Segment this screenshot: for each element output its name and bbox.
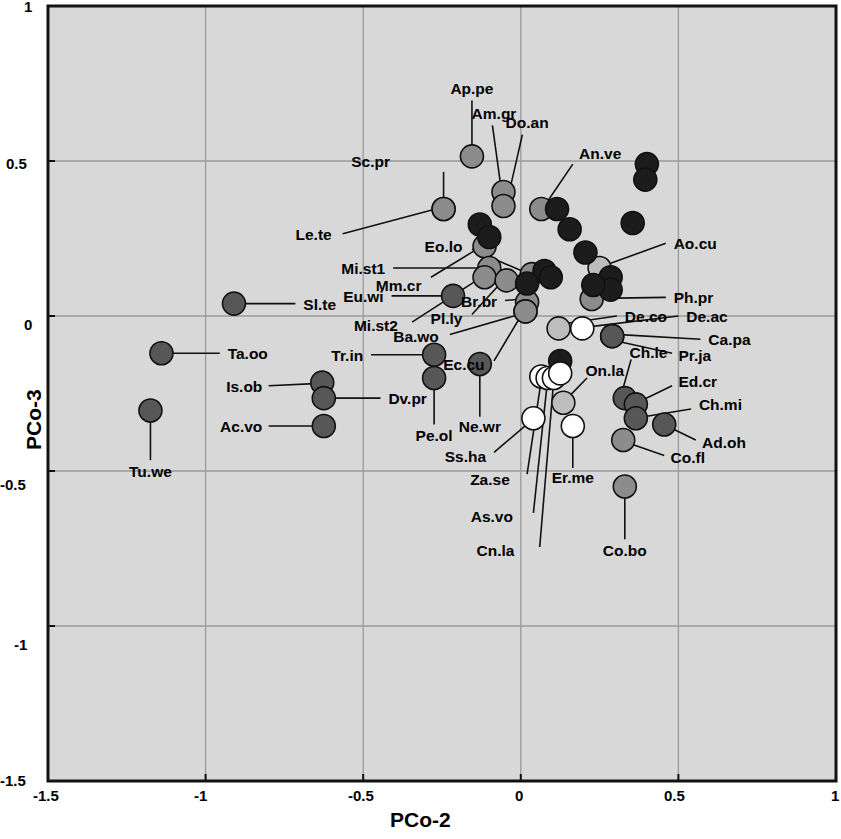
point-label: Cn.la	[477, 542, 515, 559]
x-tick-neg15: -1.5	[33, 787, 59, 804]
point-label: Dv.pr	[388, 390, 426, 407]
data-point-marker[interactable]	[539, 266, 562, 289]
x-tick-neg05: -0.5	[348, 787, 374, 804]
point-label: Ch.mi	[699, 396, 742, 413]
data-point-marker[interactable]	[478, 225, 501, 248]
point-label: Mi.st1	[341, 260, 385, 277]
data-point-marker[interactable]	[516, 272, 539, 295]
point-label: Br.br	[461, 293, 497, 310]
point-label: Tu.we	[129, 463, 172, 480]
point-label: Le.te	[295, 226, 332, 243]
point-label: On.la	[585, 362, 624, 379]
data-point-marker[interactable]	[558, 218, 581, 241]
x-tick-1: 1	[831, 787, 839, 804]
data-point-marker[interactable]	[460, 145, 483, 168]
data-point-marker[interactable]	[139, 399, 162, 422]
data-point-marker[interactable]	[473, 266, 496, 289]
x-tick-neg1: -1	[194, 787, 207, 804]
data-point-marker[interactable]	[150, 342, 173, 365]
y-axis-title: PCo-3	[22, 389, 46, 450]
point-label: Mi.st2	[354, 317, 398, 334]
point-label: Za.se	[470, 471, 510, 488]
x-tick-0: 0	[515, 787, 523, 804]
data-point-marker[interactable]	[582, 274, 605, 297]
x-axis-title: PCo-2	[390, 808, 451, 832]
y-tick-neg1: -1	[14, 636, 27, 653]
y-tick-05: 0.5	[6, 155, 27, 172]
pcoa-scatter-plot: Sl.teTa.ooIs.obDv.prAc.voTu.weSc.prLe.te…	[0, 0, 841, 839]
data-point-marker[interactable]	[634, 168, 657, 191]
point-label: De.co	[625, 308, 667, 325]
data-point-marker[interactable]	[423, 367, 446, 390]
point-label: Ne.wr	[459, 418, 501, 435]
data-point-marker[interactable]	[312, 387, 335, 410]
y-tick-neg15: -1.5	[0, 772, 26, 789]
point-label: Ao.cu	[674, 235, 717, 252]
data-point-marker[interactable]	[423, 343, 446, 366]
point-label: Ap.pe	[450, 80, 493, 97]
point-label: Pr.ja	[678, 347, 711, 364]
data-point-marker[interactable]	[432, 198, 455, 221]
data-point-marker[interactable]	[522, 407, 545, 430]
x-tick-05: 0.5	[664, 787, 685, 804]
point-label: Tr.in	[331, 347, 363, 364]
data-point-marker[interactable]	[561, 415, 584, 438]
point-label: De.ac	[686, 308, 728, 325]
point-label: Is.ob	[226, 378, 262, 395]
data-point-marker[interactable]	[601, 325, 624, 348]
data-point-marker[interactable]	[613, 475, 636, 498]
plot-background	[48, 6, 836, 781]
y-tick-1: 1	[24, 0, 32, 15]
data-point-marker[interactable]	[514, 300, 537, 323]
point-label: Ac.vo	[220, 418, 262, 435]
point-label: Ca.pa	[708, 331, 751, 348]
point-label: Pl.ly	[431, 310, 463, 327]
plot-canvas: Sl.teTa.ooIs.obDv.prAc.voTu.weSc.prLe.te…	[0, 0, 841, 839]
point-label: Ba.wo	[393, 328, 439, 345]
data-point-marker[interactable]	[495, 269, 518, 292]
data-point-marker[interactable]	[552, 391, 575, 414]
data-point-marker[interactable]	[624, 407, 647, 430]
point-label: Pe.ol	[416, 427, 453, 444]
point-label: As.vo	[471, 508, 513, 525]
data-point-marker[interactable]	[546, 198, 569, 221]
point-label: Sl.te	[303, 296, 336, 313]
data-point-marker[interactable]	[312, 415, 335, 438]
y-tick-0: 0	[24, 316, 32, 333]
point-label: Ta.oo	[228, 345, 268, 362]
point-label: Er.me	[552, 469, 595, 486]
point-label: Eo.lo	[425, 238, 463, 255]
data-point-marker[interactable]	[492, 194, 515, 217]
data-point-marker[interactable]	[547, 317, 570, 340]
point-label: Ss.ha	[445, 448, 487, 465]
point-label: Co.fl	[671, 449, 705, 466]
y-tick-neg05: -0.5	[0, 476, 26, 493]
point-label: Ed.cr	[678, 373, 717, 390]
point-label: Sc.pr	[351, 153, 390, 170]
point-label: Co.bo	[603, 542, 647, 559]
data-point-marker[interactable]	[621, 212, 644, 235]
point-label: Ch.le	[630, 344, 668, 361]
data-point-marker[interactable]	[653, 413, 676, 436]
point-label: Ph.pr	[674, 289, 714, 306]
data-point-marker[interactable]	[574, 241, 597, 264]
point-label: An.ve	[579, 145, 622, 162]
point-label: Do.an	[506, 114, 549, 131]
data-point-marker[interactable]	[612, 429, 635, 452]
data-point-marker[interactable]	[571, 317, 594, 340]
data-point-marker[interactable]	[222, 292, 245, 315]
point-label: Eu.wi	[343, 288, 383, 305]
point-label: Ec.cu	[443, 356, 484, 373]
point-label: Ad.oh	[702, 434, 746, 451]
data-point-marker[interactable]	[549, 362, 572, 385]
